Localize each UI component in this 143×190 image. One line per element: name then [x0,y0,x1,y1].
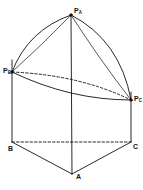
label-A: A [76,173,81,180]
point-PC [130,99,132,101]
label-C: C [133,143,138,150]
edge-A-C [72,142,131,174]
point-PB [11,71,13,73]
arc-PA-PB-outer [12,15,71,72]
point-PA [70,14,72,16]
label-PC: PC [134,95,142,104]
prism-surface-diagram [0,0,143,190]
edge-B-A [12,142,72,174]
label-B: B [8,145,13,152]
edge-A-PA [71,15,72,174]
arc-PA-PB-inner [12,15,71,72]
label-PB: PB [3,67,11,76]
label-PA: PA [74,7,82,16]
